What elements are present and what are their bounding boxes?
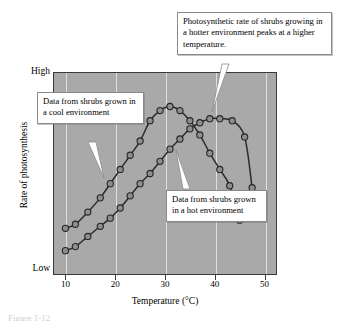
callout-cool-series: Data from shrubs grown in a cool environ… [37, 92, 144, 124]
callout-hotter-peak: Photosynthetic rate of shrubs growing in… [177, 12, 332, 55]
callout-hot-series: Data from shrubs grown in a hot environm… [166, 190, 267, 222]
photosynthesis-temperature-figure: High Low Rate of photosynthesis Temperat… [0, 0, 338, 322]
